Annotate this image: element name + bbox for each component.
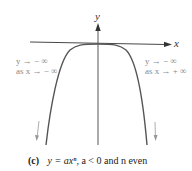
right-down-arrow-head-icon bbox=[154, 135, 158, 141]
caption-tag: (c) bbox=[28, 155, 39, 166]
right-annotation-line2: as x → + ∞ bbox=[145, 66, 187, 76]
left-annotation-line1: y → − ∞ bbox=[16, 56, 58, 66]
graph-canvas bbox=[0, 0, 192, 171]
y-axis-label: y bbox=[95, 10, 100, 22]
right-annotation-line1: y → − ∞ bbox=[145, 56, 187, 66]
right-annotation: y → − ∞ as x → + ∞ bbox=[145, 56, 187, 76]
left-annotation-line2: as x → − ∞ bbox=[16, 66, 58, 76]
left-annotation: y → − ∞ as x → − ∞ bbox=[16, 56, 58, 76]
left-down-arrow-head-icon bbox=[35, 135, 39, 141]
x-axis-arrow-icon bbox=[164, 42, 172, 47]
caption-equation: y = axⁿ, bbox=[48, 155, 79, 166]
figure-caption: (c) y = axⁿ, a < 0 and n even bbox=[28, 155, 147, 166]
caption-condition: a < 0 and n even bbox=[81, 155, 147, 166]
curve-y-ax-n bbox=[46, 44, 147, 145]
y-axis-arrow-icon bbox=[95, 23, 100, 31]
x-axis-label: x bbox=[174, 37, 179, 49]
